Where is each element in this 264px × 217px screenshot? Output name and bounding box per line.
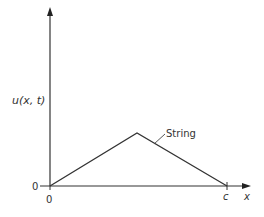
plucked-string-diagram: u(x, t) String 0 0 c x <box>0 0 264 217</box>
origin-x-label: 0 <box>46 194 52 205</box>
x-axis-label: x <box>243 191 250 202</box>
string-leader-line <box>154 134 165 144</box>
x-axis-arrow-icon <box>242 183 251 189</box>
c-label: c <box>223 191 229 202</box>
string-label: String <box>166 128 196 139</box>
y-axis-label: u(x, t) <box>12 94 45 107</box>
y-axis-arrow-icon <box>47 7 53 16</box>
string-curve <box>50 133 227 186</box>
origin-y-label: 0 <box>32 181 38 192</box>
